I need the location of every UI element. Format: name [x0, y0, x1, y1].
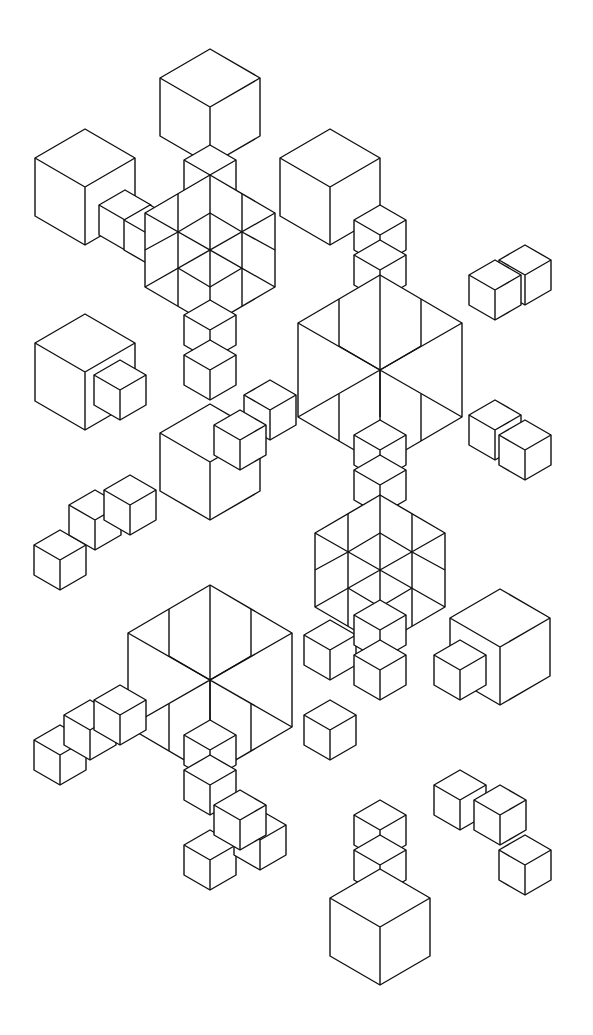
isometric-cube-drawing: [0, 0, 593, 1035]
